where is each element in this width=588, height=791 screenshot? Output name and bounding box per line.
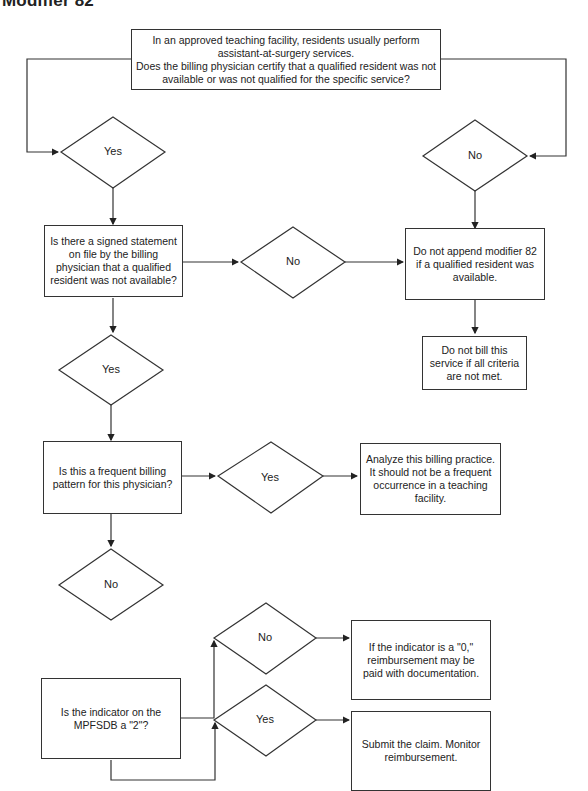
signed-statement-question-box: Is there a signed statement on file by t…: [44, 225, 183, 297]
decision-no-1: No: [445, 149, 505, 161]
decision-no-3: No: [81, 578, 141, 590]
submit-claim-box: Submit the claim. Monitor reimbursement.: [351, 711, 491, 791]
submit-claim-text: Submit the claim. Monitor reimbursement.: [356, 738, 486, 764]
do-not-bill-box: Do not bill this service if all criteria…: [422, 336, 527, 390]
frequent-pattern-text: Is this a frequent billing pattern for t…: [48, 465, 177, 491]
analyze-practice-box: Analyze this billing practice. It should…: [360, 443, 501, 515]
do-not-append-box: Do not append modifier 82 if a qualified…: [405, 228, 545, 300]
decision-yes-1: Yes: [83, 145, 143, 157]
decision-yes-4: Yes: [235, 713, 295, 725]
frequent-pattern-question-box: Is this a frequent billing pattern for t…: [43, 441, 182, 514]
do-not-append-text: Do not append modifier 82 if a qualified…: [410, 245, 540, 284]
start-question-text: In an approved teaching facility, reside…: [136, 34, 436, 86]
do-not-bill-text: Do not bill this service if all criteria…: [427, 344, 522, 383]
indicator-question-text: Is the indicator on the MPFSDB a "2"?: [46, 706, 176, 732]
decision-yes-3: Yes: [240, 471, 300, 483]
indicator-zero-box: If the indicator is a "0," reimbursement…: [351, 620, 491, 700]
signed-statement-text: Is there a signed statement on file by t…: [49, 235, 178, 287]
decision-yes-2: Yes: [81, 363, 141, 375]
decision-no-2: No: [263, 255, 323, 267]
analyze-practice-text: Analyze this billing practice. It should…: [365, 453, 496, 505]
indicator-zero-text: If the indicator is a "0," reimbursement…: [356, 641, 486, 680]
start-question-box: In an approved teaching facility, reside…: [131, 29, 441, 90]
indicator-question-box: Is the indicator on the MPFSDB a "2"?: [41, 678, 181, 759]
decision-no-4: No: [235, 631, 295, 643]
